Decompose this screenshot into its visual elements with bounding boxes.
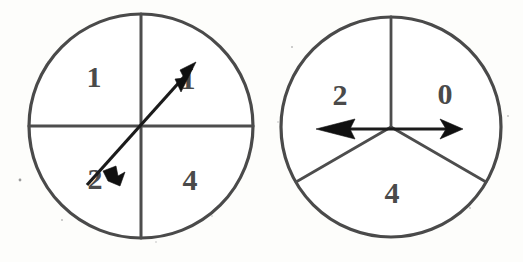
left-spinner-label-lower-right: 4 bbox=[183, 163, 198, 196]
right-spinner-label-upper-left: 2 bbox=[333, 78, 348, 111]
spinner-figure-canvas: 1 1 2 4 bbox=[0, 0, 523, 262]
right-spinner[interactable]: 2 0 4 bbox=[281, 17, 501, 237]
right-spinner-label-upper-right: 0 bbox=[438, 77, 453, 110]
left-spinner[interactable]: 1 1 2 4 bbox=[29, 14, 253, 238]
left-spinner-label-upper-left: 1 bbox=[87, 60, 102, 93]
spinner-figure: 1 1 2 4 bbox=[0, 0, 523, 262]
right-spinner-label-bottom: 4 bbox=[385, 176, 400, 209]
